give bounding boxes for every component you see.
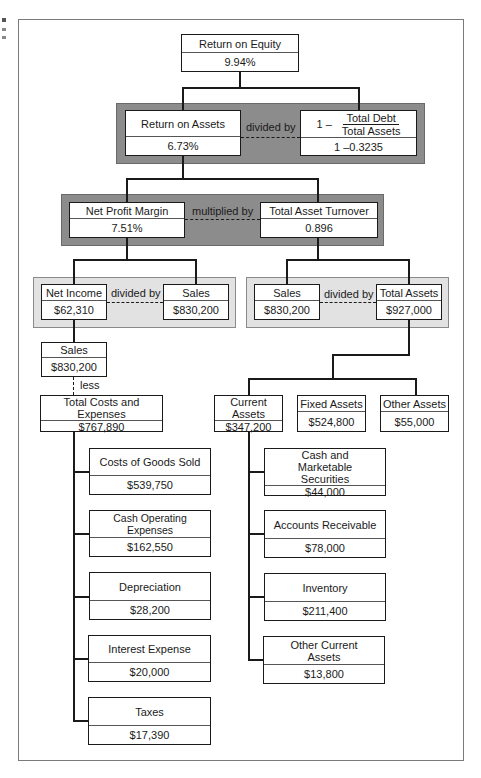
less-label: less [80, 379, 100, 391]
connector [332, 354, 334, 379]
connector [195, 259, 197, 284]
node-label: Net Income [42, 285, 106, 301]
node-expense-interest: Interest Expense $20,000 [88, 635, 211, 682]
node-label: Fixed Assets [298, 396, 365, 412]
operator-label: divided by [324, 288, 374, 300]
connector [126, 178, 128, 202]
connector [286, 259, 409, 261]
connector [239, 72, 241, 88]
node-label: Sales [255, 285, 319, 301]
connector [73, 259, 75, 284]
node-value: $162,550 [90, 538, 210, 556]
node-label: Cash and Marketable Securities [265, 449, 385, 486]
node-label: Taxes [89, 698, 210, 726]
node-expense-depreciation: Depreciation $28,200 [89, 572, 211, 620]
operator-line [185, 219, 260, 220]
node-label: Cash Operating Expenses [90, 511, 210, 538]
node-label: Net Profit Margin [70, 203, 184, 219]
node-other-assets: Other Assets $55,000 [380, 395, 449, 432]
node-value: $13,800 [264, 665, 384, 683]
connector [73, 259, 196, 261]
debt-prefix: 1 – [317, 118, 332, 130]
connector [358, 87, 360, 110]
operator-line [241, 137, 300, 138]
node-label: Current Assets [215, 396, 282, 421]
node-value: $78,000 [265, 539, 385, 557]
node-value: $927,000 [377, 301, 441, 319]
connector [248, 378, 250, 395]
connector [126, 238, 128, 260]
page-margin-mark [2, 18, 6, 22]
node-net-income: Net Income $62,310 [41, 284, 107, 320]
node-label: Total Asset Turnover [261, 203, 377, 219]
node-expense-cash-operating: Cash Operating Expenses $162,550 [89, 510, 211, 557]
node-sales-turnover: Sales $830,200 [254, 284, 320, 320]
node-value: $539,750 [90, 476, 210, 494]
node-value: $55,000 [381, 412, 448, 431]
node-accounts-receivable: Accounts Receivable $78,000 [264, 510, 386, 558]
connector [73, 471, 89, 473]
connector [182, 87, 184, 110]
connector [286, 259, 288, 284]
less-connector [73, 377, 74, 395]
debt-numerator: Total Debt [343, 112, 399, 125]
page-margin-mark [2, 36, 6, 39]
connector [248, 533, 264, 535]
node-value: $830,200 [255, 301, 319, 319]
connector [408, 320, 410, 355]
node-label: Return on Assets [126, 111, 240, 137]
node-label: Costs of Goods Sold [90, 449, 210, 476]
node-value: 9.94% [182, 53, 298, 71]
connector [317, 238, 319, 260]
node-other-current-assets: Other Current Assets $13,800 [263, 636, 385, 684]
debt-denominator: Total Assets [342, 125, 401, 137]
operator-line [107, 302, 163, 303]
node-label: Sales [164, 285, 228, 301]
node-total-costs: Total Costs and Expenses $767,890 [40, 395, 163, 432]
node-label: Total Assets [377, 285, 441, 301]
node-value: 6.73% [126, 137, 240, 155]
current-assets-spine [248, 432, 250, 660]
node-inventory: Inventory $211,400 [264, 573, 386, 621]
node-label: Return on Equity [182, 35, 298, 53]
node-expense-cogs: Costs of Goods Sold $539,750 [89, 448, 211, 495]
node-label: Interest Expense [89, 636, 210, 663]
node-return-on-equity: Return on Equity 9.94% [181, 34, 299, 72]
node-label: Accounts Receivable [265, 511, 385, 539]
connector [182, 87, 359, 89]
node-label: Total Costs and Expenses [41, 396, 162, 421]
node-total-asset-turnover: Total Asset Turnover 0.896 [260, 202, 378, 238]
node-value: $347,200 [215, 421, 282, 433]
connector [248, 659, 264, 661]
connector [408, 259, 410, 284]
node-value: $44,000 [265, 486, 385, 498]
node-cash-securities: Cash and Marketable Securities $44,000 [264, 448, 386, 496]
node-value: 7.51% [70, 219, 184, 237]
node-label: Depreciation [90, 573, 210, 601]
node-sales: Sales $830,200 [41, 342, 107, 377]
connector [73, 596, 89, 598]
node-total-assets: Total Assets $927,000 [376, 284, 442, 320]
connector [73, 720, 89, 722]
node-expense-taxes: Taxes $17,390 [88, 697, 211, 745]
node-label: Sales [42, 343, 106, 358]
connector [73, 533, 89, 535]
node-fixed-assets: Fixed Assets $524,800 [297, 395, 366, 432]
node-value: 0.896 [261, 219, 377, 237]
connector [126, 178, 318, 180]
operator-label: divided by [111, 287, 161, 299]
operator-label: multiplied by [192, 205, 253, 217]
node-value: $20,000 [89, 663, 210, 681]
page-margin-mark [2, 28, 6, 31]
node-value: $62,310 [42, 301, 106, 319]
node-value: $830,200 [164, 301, 228, 319]
node-value: 1 –0.3235 [301, 138, 416, 155]
node-current-assets: Current Assets $347,200 [214, 395, 283, 432]
connector [73, 320, 75, 342]
connector [248, 471, 264, 473]
node-label: Other Assets [381, 396, 448, 412]
node-value: $830,200 [42, 358, 106, 376]
connector [248, 596, 264, 598]
node-sales-margin: Sales $830,200 [163, 284, 229, 320]
connector [317, 178, 319, 202]
